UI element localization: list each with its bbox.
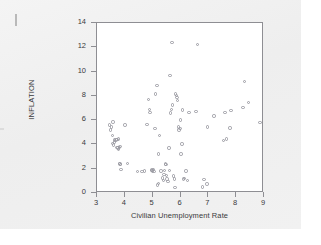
scatter-point: [173, 186, 176, 189]
plot-area-frame: [96, 22, 263, 192]
x-axis-tick: [124, 192, 125, 197]
scatter-point: [202, 178, 205, 181]
y-axis-tick-label: 8: [42, 91, 86, 99]
scatter-point: [258, 121, 261, 124]
scatter-point: [180, 142, 183, 145]
x-axis-tick-label: 7: [197, 199, 217, 207]
scatter-point: [111, 134, 114, 137]
scatter-point: [196, 43, 199, 46]
scatter-point: [167, 146, 170, 149]
scatter-point: [212, 114, 215, 117]
x-axis-tick-label: 5: [142, 199, 162, 207]
scatter-point: [171, 103, 174, 106]
scatter-point: [162, 179, 165, 182]
scatter-point: [155, 84, 158, 87]
scatter-point: [148, 111, 151, 114]
scatter-chart: INFLATION Civilian Unemployment Rate 024…: [0, 0, 301, 229]
x-axis-tick-label: 9: [253, 199, 273, 207]
y-axis-tick-label: 0: [42, 188, 86, 196]
x-axis-tick: [180, 192, 181, 197]
scatter-point: [170, 41, 173, 44]
scatter-point: [228, 126, 231, 129]
x-axis-title: Civilian Unemployment Rate: [96, 211, 263, 220]
y-axis-title: INFLATION: [27, 45, 36, 155]
scatter-point: [176, 99, 179, 102]
scatter-point: [205, 182, 208, 185]
scatter-point: [168, 74, 171, 77]
scatter-point: [229, 109, 232, 112]
y-axis-tick: [91, 168, 96, 169]
x-axis-tick: [235, 192, 236, 197]
scatter-point: [225, 137, 228, 140]
y-axis-tick-label: 10: [42, 67, 86, 75]
scatter-point: [241, 106, 244, 109]
scatter-point: [206, 125, 209, 128]
scatter-point: [163, 169, 166, 172]
scatter-point: [243, 80, 246, 83]
y-axis-tick-label: 12: [42, 43, 86, 51]
x-axis-tick: [152, 192, 153, 197]
scatter-point: [169, 111, 172, 114]
scatter-point: [184, 169, 187, 172]
scatter-point: [158, 134, 161, 137]
y-axis-tick: [91, 95, 96, 96]
scatter-point: [179, 118, 182, 121]
scatter-point: [247, 101, 250, 104]
scatter-point: [119, 168, 122, 171]
x-axis-tick: [263, 192, 264, 197]
screenshot-root: INFLATION Civilian Unemployment Rate 024…: [0, 0, 321, 245]
scatter-point: [179, 152, 182, 155]
scatter-point: [110, 125, 113, 128]
scatter-point: [168, 169, 171, 172]
scatter-point: [111, 120, 114, 123]
x-axis-tick-label: 4: [114, 199, 134, 207]
scatter-point: [194, 110, 197, 113]
y-axis-tick: [91, 119, 96, 120]
x-axis-tick-label: 3: [86, 199, 106, 207]
x-axis-tick: [96, 192, 97, 197]
scatter-point: [154, 92, 157, 95]
scatter-point: [118, 145, 121, 148]
scatter-point: [186, 179, 189, 182]
x-axis-tick-label: 6: [170, 199, 190, 207]
scatter-point: [201, 185, 204, 188]
x-axis-tick-label: 8: [225, 199, 245, 207]
scatter-point: [123, 123, 126, 126]
scatter-point: [223, 111, 226, 114]
y-axis-tick-label: 14: [42, 18, 86, 26]
y-axis-tick-label: 6: [42, 115, 86, 123]
y-axis-tick: [91, 46, 96, 47]
scatter-point: [117, 137, 120, 140]
scatter-point: [157, 182, 160, 185]
y-axis-tick: [91, 143, 96, 144]
scatter-point: [157, 152, 160, 155]
y-axis-tick: [91, 22, 96, 23]
scatter-point: [147, 98, 150, 101]
y-axis-tick: [91, 71, 96, 72]
scatter-point: [152, 170, 155, 173]
scatter-point: [181, 108, 184, 111]
scatter-point: [145, 123, 148, 126]
scatter-point: [173, 177, 176, 180]
y-axis-tick-label: 2: [42, 164, 86, 172]
scatter-point: [109, 128, 112, 131]
scatter-point: [178, 127, 181, 130]
scatter-point: [166, 180, 169, 183]
scatter-points-layer: [97, 23, 262, 191]
scatter-point: [170, 108, 173, 111]
scatter-point: [143, 169, 146, 172]
scatter-point: [136, 170, 139, 173]
scatter-point: [153, 127, 156, 130]
scatter-point: [126, 162, 129, 165]
scatter-point: [164, 163, 167, 166]
scatter-point: [119, 163, 122, 166]
x-axis-tick: [207, 192, 208, 197]
y-axis-tick-label: 4: [42, 140, 86, 148]
scatter-point: [187, 111, 190, 114]
